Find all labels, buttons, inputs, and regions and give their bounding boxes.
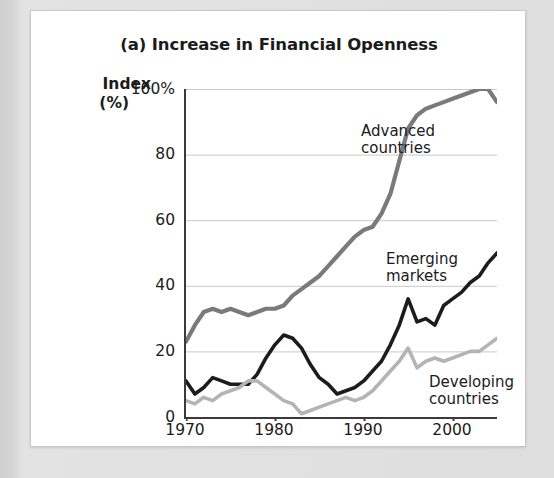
series-label-advanced-line1: Advanced bbox=[361, 123, 435, 140]
figure-root: (a) Increase in Financial Openness Index… bbox=[0, 0, 554, 478]
series-label-emerging-line2: markets bbox=[386, 268, 458, 285]
y-tick-label-20: 20 bbox=[113, 344, 175, 360]
series-label-developing-countries: Developing countries bbox=[429, 374, 514, 408]
y-tick-label-60: 60 bbox=[113, 213, 175, 229]
series-label-advanced-line2: countries bbox=[361, 140, 435, 157]
x-tick-label-2000: 2000 bbox=[424, 423, 480, 439]
series-line-advanced-countries bbox=[186, 89, 497, 342]
gridlines bbox=[186, 90, 497, 352]
series-label-developing-line2: countries bbox=[429, 391, 514, 408]
series-label-emerging-line1: Emerging bbox=[386, 251, 458, 268]
x-tick-label-1990: 1990 bbox=[335, 423, 391, 439]
y-tick-label-100: 100% bbox=[113, 82, 175, 98]
x-tick-label-1980: 1980 bbox=[246, 423, 302, 439]
y-tick-label-80: 80 bbox=[113, 147, 175, 163]
series-label-emerging-markets: Emerging markets bbox=[386, 251, 458, 285]
y-tick-label-40: 40 bbox=[113, 278, 175, 294]
series-label-developing-line1: Developing bbox=[429, 374, 514, 391]
x-tick-label-1970: 1970 bbox=[157, 423, 213, 439]
page-title: (a) Increase in Financial Openness bbox=[31, 35, 527, 54]
figure-card: (a) Increase in Financial Openness Index… bbox=[30, 10, 526, 447]
x-axis-tick-marks bbox=[187, 417, 454, 421]
series-label-advanced-countries: Advanced countries bbox=[361, 123, 435, 157]
